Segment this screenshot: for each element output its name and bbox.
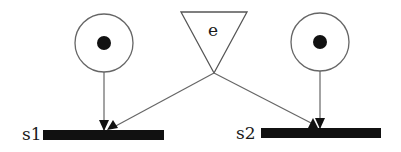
- arc-e-s1: [112, 73, 214, 128]
- token-icon: [313, 35, 327, 49]
- place-p2: [291, 13, 349, 71]
- transition-s1-label: s1: [22, 124, 42, 144]
- event-e: e: [181, 12, 247, 73]
- transition-s1-bar: [43, 130, 164, 140]
- transition-s2-bar: [261, 128, 381, 138]
- place-p1: [75, 14, 133, 72]
- token-icon: [97, 36, 111, 50]
- petri-net-diagram: e s1 s2: [0, 0, 401, 152]
- transition-s2-label: s2: [236, 123, 256, 143]
- diagram-svg: e s1 s2: [0, 0, 401, 152]
- event-label: e: [208, 20, 218, 40]
- arc-e-s2: [214, 73, 313, 124]
